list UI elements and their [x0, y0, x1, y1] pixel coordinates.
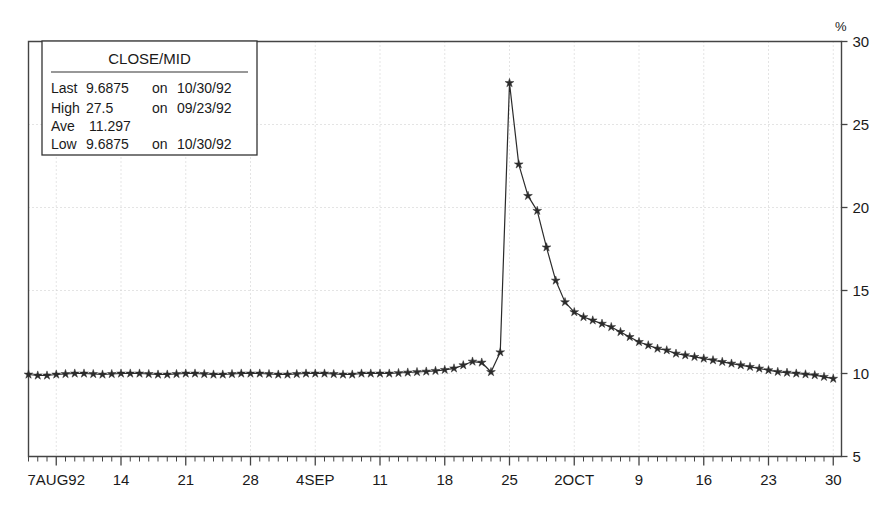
y-tick-label: 5: [853, 448, 861, 465]
legend-row-1-value: 27.5: [86, 100, 113, 116]
legend-row-3-label: Low: [51, 136, 78, 152]
y-axis-unit-label: %: [835, 19, 847, 34]
line-chart: 7AUG921421284SEP1118252OCT9162330 510152…: [0, 0, 892, 507]
legend-row-3-value: 9.6875: [86, 136, 129, 152]
legend-row-1-label: High: [51, 100, 80, 116]
x-tick-label: 9: [635, 471, 643, 488]
y-tick-label: 15: [853, 282, 870, 299]
legend-row-3-date: 10/30/92: [177, 136, 232, 152]
x-tick-label: 7AUG92: [27, 471, 85, 488]
x-tick-label: 4SEP: [296, 471, 334, 488]
x-tick-label: 2OCT: [554, 471, 594, 488]
legend-row-3-on: on: [152, 136, 168, 152]
legend-row-1-date: 09/23/92: [177, 100, 232, 116]
x-tick-label: 23: [760, 471, 777, 488]
chart-container: 7AUG921421284SEP1118252OCT9162330 510152…: [0, 0, 892, 507]
y-tick-label: 20: [853, 199, 870, 216]
legend-row-0-label: Last: [51, 80, 78, 96]
y-tick-label: 30: [853, 33, 870, 50]
x-tick-label: 28: [242, 471, 259, 488]
x-tick-label: 30: [825, 471, 842, 488]
legend-row-0-on: on: [152, 80, 168, 96]
legend-title: CLOSE/MID: [108, 50, 191, 67]
legend-box: CLOSE/MID Last 9.6875 on 10/30/92 High 2…: [42, 41, 257, 155]
x-tick-label: 18: [436, 471, 453, 488]
x-tick-label: 25: [501, 471, 518, 488]
x-tick-label: 14: [113, 471, 130, 488]
x-tick-label: 21: [177, 471, 194, 488]
x-tick-label: 16: [695, 471, 712, 488]
legend-row-1-on: on: [152, 100, 168, 116]
legend-row-2-label: Ave: [51, 118, 75, 134]
x-tick-label: 11: [372, 471, 388, 488]
legend-row-0-date: 10/30/92: [177, 80, 232, 96]
legend-row-0-value: 9.6875: [86, 80, 129, 96]
legend-row-2-value: 11.297: [89, 118, 131, 134]
y-tick-label: 25: [853, 116, 870, 133]
y-tick-label: 10: [853, 365, 870, 382]
